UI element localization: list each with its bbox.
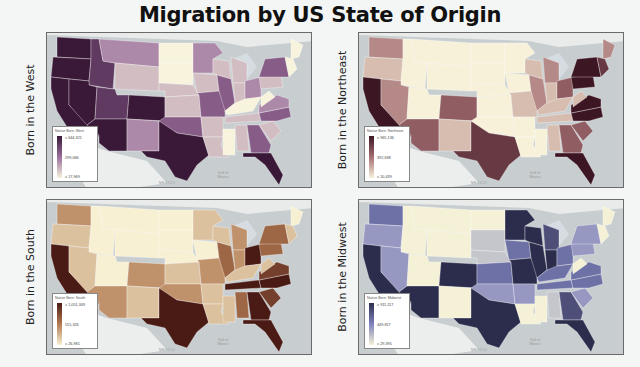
legend-color-bar bbox=[369, 303, 374, 345]
state-ks[interactable] bbox=[477, 262, 513, 284]
state-ia[interactable] bbox=[193, 73, 219, 93]
state-ia[interactable] bbox=[505, 73, 531, 93]
state-co[interactable] bbox=[439, 95, 477, 121]
map-panel-midwest[interactable]: MEXICOGulf of Mexico Native Born: Midwes… bbox=[358, 199, 624, 355]
state-co[interactable] bbox=[127, 95, 165, 121]
state-al[interactable] bbox=[235, 125, 249, 151]
state-al[interactable] bbox=[547, 292, 561, 318]
gulf-label: Gulf of Mexico bbox=[213, 171, 233, 179]
side-label-midwest: Born in the Midwest bbox=[336, 202, 352, 352]
legend-min: ≤ 29,395 bbox=[377, 342, 392, 346]
state-sd[interactable] bbox=[471, 230, 505, 252]
legend-mid: 449,817 bbox=[377, 323, 391, 327]
state-oh[interactable] bbox=[245, 244, 261, 266]
state-nm[interactable] bbox=[439, 286, 471, 318]
state-wa[interactable] bbox=[57, 37, 91, 59]
mexico-label: MEXICO bbox=[159, 181, 175, 185]
state-wa[interactable] bbox=[369, 204, 403, 226]
legend-max: ≥ 911,117 bbox=[377, 303, 393, 307]
state-oh[interactable] bbox=[557, 244, 573, 266]
state-ia[interactable] bbox=[505, 240, 531, 260]
state-wy[interactable] bbox=[115, 230, 159, 258]
legend-title: Native Born: Midwest bbox=[367, 296, 401, 300]
legend-title: Native Born: West bbox=[55, 129, 84, 133]
state-nd[interactable] bbox=[159, 43, 193, 63]
state-nd[interactable] bbox=[471, 210, 505, 230]
legend: Native Born: South ≥ 1,051,349 515,326 ≤… bbox=[52, 293, 98, 349]
state-ms[interactable] bbox=[223, 129, 235, 155]
side-label-south: Born in the South bbox=[24, 202, 40, 352]
state-ks[interactable] bbox=[477, 95, 513, 117]
state-ar[interactable] bbox=[513, 284, 535, 304]
legend-max: ≥ 644,321 bbox=[65, 136, 82, 140]
state-al[interactable] bbox=[547, 125, 561, 151]
legend-title: Native Born: South bbox=[55, 296, 85, 300]
legend-min: ≤ 26,981 bbox=[65, 342, 80, 346]
state-co[interactable] bbox=[439, 262, 477, 288]
state-ms[interactable] bbox=[223, 296, 235, 322]
state-nd[interactable] bbox=[471, 43, 505, 63]
legend: Native Born: Midwest ≥ 911,117 449,817 ≤… bbox=[364, 293, 410, 349]
state-wy[interactable] bbox=[115, 63, 159, 91]
state-ks[interactable] bbox=[165, 95, 201, 117]
state-nm[interactable] bbox=[127, 286, 159, 318]
state-ar[interactable] bbox=[201, 117, 223, 137]
legend-max: ≥ 965,136 bbox=[377, 136, 394, 140]
state-ia[interactable] bbox=[193, 240, 219, 260]
state-ne[interactable] bbox=[159, 83, 199, 97]
state-al[interactable] bbox=[235, 292, 249, 318]
state-ar[interactable] bbox=[201, 284, 223, 304]
state-oh[interactable] bbox=[245, 77, 261, 99]
state-wa[interactable] bbox=[57, 204, 91, 226]
map-panel-northeast[interactable]: MEXICOGulf of Mexico Native Born: Northe… bbox=[358, 32, 624, 188]
map-panel-south[interactable]: MEXICOGulf of Mexico Native Born: South … bbox=[46, 199, 312, 355]
state-ar[interactable] bbox=[513, 117, 535, 137]
gulf-label: Gulf of Mexico bbox=[525, 338, 545, 346]
state-oh[interactable] bbox=[557, 77, 573, 99]
state-ne[interactable] bbox=[471, 83, 511, 97]
gulf-label: Gulf of Mexico bbox=[213, 338, 233, 346]
legend-color-bar bbox=[57, 303, 62, 345]
gulf-label: Gulf of Mexico bbox=[525, 171, 545, 179]
state-sd[interactable] bbox=[471, 63, 505, 85]
legend-color-bar bbox=[57, 136, 62, 178]
state-sd[interactable] bbox=[159, 63, 193, 85]
state-co[interactable] bbox=[127, 262, 165, 288]
state-sd[interactable] bbox=[159, 230, 193, 252]
side-label-west: Born in the West bbox=[24, 35, 40, 185]
state-nm[interactable] bbox=[127, 119, 159, 151]
legend-color-bar bbox=[369, 136, 374, 178]
state-wy[interactable] bbox=[427, 230, 471, 258]
state-ks[interactable] bbox=[165, 262, 201, 284]
legend-mid: 299,066 bbox=[65, 156, 79, 160]
state-ms[interactable] bbox=[535, 296, 547, 322]
mexico-label: MEXICO bbox=[471, 181, 487, 185]
mexico-label: MEXICO bbox=[159, 348, 175, 352]
legend: Native Born: West ≥ 644,321 299,066 ≤ 17… bbox=[52, 126, 98, 182]
legend-max: ≥ 1,051,349 bbox=[65, 303, 85, 307]
state-nm[interactable] bbox=[439, 119, 471, 151]
legend-mid: 515,326 bbox=[65, 323, 79, 327]
legend-min: ≤ 17,969 bbox=[65, 175, 80, 179]
state-ne[interactable] bbox=[471, 250, 511, 264]
legend-title: Native Born: Northeast bbox=[367, 129, 403, 133]
state-ms[interactable] bbox=[535, 129, 547, 155]
side-label-northeast: Born in the Northeast bbox=[336, 35, 352, 185]
map-panel-west[interactable]: MEXICOGulf of Mexico Native Born: West ≥… bbox=[46, 32, 312, 188]
state-wa[interactable] bbox=[369, 37, 403, 59]
state-ne[interactable] bbox=[159, 250, 199, 264]
legend: Native Born: Northeast ≥ 965,136 392,638… bbox=[364, 126, 410, 182]
legend-min: ≤ 10,439 bbox=[377, 175, 392, 179]
state-wy[interactable] bbox=[427, 63, 471, 91]
page-title: Migration by US State of Origin bbox=[0, 3, 640, 27]
state-nd[interactable] bbox=[159, 210, 193, 230]
legend-mid: 392,638 bbox=[377, 156, 391, 160]
mexico-label: MEXICO bbox=[471, 348, 487, 352]
